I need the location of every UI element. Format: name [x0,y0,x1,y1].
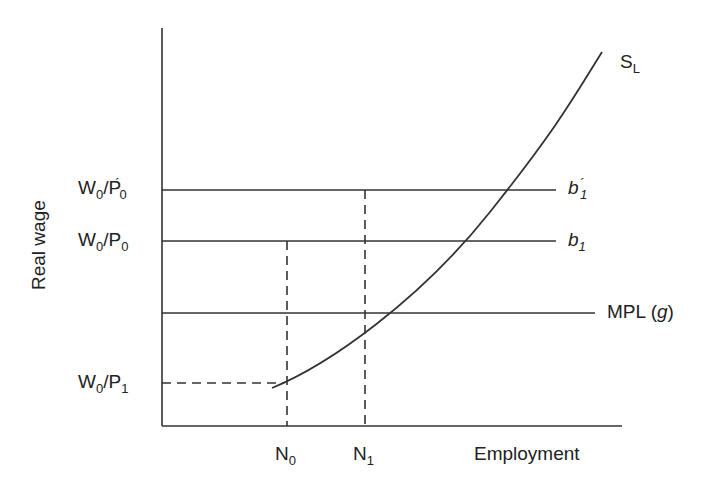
labour-market-diagram: Real wage W0/P´0 W0/P0 W0/P1 N0 N1 Emplo… [0,0,720,492]
mpl-label: MPL (g) [607,302,674,321]
b1-prime-label: b´1 [568,178,587,197]
x-axis-label: Employment [474,444,580,463]
b1-label: b1 [568,230,586,249]
y-tick-w0-p1: W0/P1 [78,372,128,391]
y-axis-label: Real wage [28,200,50,290]
y-tick-w0-p0-prime: W0/P´0 [78,178,127,197]
x-tick-n0: N0 [275,444,296,463]
y-tick-w0-p0: W0/P0 [78,230,128,249]
supply-curve-label: SL [620,52,640,71]
labour-supply-curve [272,52,602,388]
x-tick-n1: N1 [353,444,374,463]
